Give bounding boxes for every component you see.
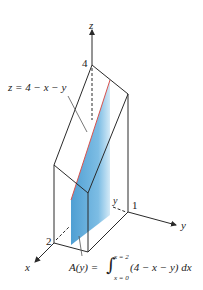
x-axis-hidden (56, 226, 70, 240)
solid-volume-diagram: z 4 z = 4 − x − y y 1 y 2 x A(y) = ∫ x =… (0, 0, 203, 290)
left-slant-edge (54, 65, 92, 165)
y-slice-dash (113, 207, 126, 212)
area-formula-lhs: A(y) = (69, 262, 98, 273)
y-tick-label: 1 (132, 200, 138, 211)
diagram-graphics (0, 0, 203, 290)
integrand: (4 − x − y) dx (130, 262, 192, 273)
upper-limit: x = 2 (114, 254, 129, 261)
x-tick-label: 2 (46, 236, 52, 247)
lower-limit: x = 0 (114, 275, 129, 282)
z-axis-label: z (89, 20, 93, 31)
surface-equation-label: z = 4 − x − y (8, 82, 66, 93)
z-tick-label: 4 (82, 58, 88, 69)
area-label-leader (79, 236, 82, 256)
y-axis-label: y (181, 220, 186, 231)
x-axis-label: x (25, 262, 30, 273)
surface-label-leader (68, 96, 87, 132)
y-slice-label: y (113, 196, 117, 206)
y-axis (128, 212, 176, 225)
